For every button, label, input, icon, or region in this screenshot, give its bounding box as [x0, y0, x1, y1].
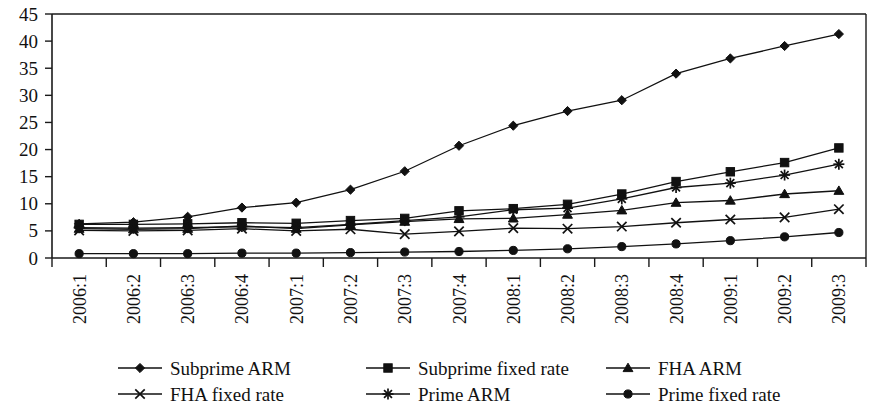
x-axis-tick-label: 2007:4 — [450, 274, 470, 324]
marker-square — [384, 364, 392, 372]
legend-item-label: FHA fixed rate — [170, 384, 284, 405]
marker-asterisk — [383, 389, 394, 400]
marker-circle — [238, 249, 246, 257]
y-axis-tick-label: 10 — [19, 193, 38, 214]
x-axis-tick-label: 2008:4 — [667, 274, 687, 324]
marker-square — [726, 168, 734, 176]
x-axis-tick-label: 2006:2 — [124, 274, 144, 324]
x-axis-tick-label: 2006:3 — [178, 274, 198, 324]
marker-circle — [401, 248, 409, 256]
marker-circle — [129, 250, 137, 258]
y-axis-tick-label: 0 — [29, 248, 39, 269]
y-axis-tick-label: 40 — [19, 31, 38, 52]
marker-diamond — [346, 185, 355, 194]
marker-circle — [455, 247, 463, 255]
y-axis-tick-label: 35 — [19, 58, 38, 79]
x-axis-tick-label: 2009:1 — [721, 274, 741, 324]
y-axis-tick-label: 5 — [29, 220, 39, 241]
marker-circle — [726, 237, 734, 245]
marker-asterisk — [291, 222, 302, 233]
marker-diamond — [834, 29, 843, 38]
marker-asterisk — [779, 170, 790, 181]
marker-diamond — [237, 203, 246, 212]
marker-asterisk — [562, 203, 573, 214]
y-axis: 051015202530354045 — [19, 4, 52, 269]
x-axis-tick-label: 2006:4 — [232, 274, 252, 324]
chart-canvas: 051015202530354045 2006:12006:22006:3200… — [0, 0, 884, 406]
marker-circle — [672, 240, 680, 248]
legend-item-label: Subprime ARM — [170, 358, 291, 379]
marker-circle — [184, 250, 192, 258]
marker-asterisk — [182, 222, 193, 233]
y-axis-tick-label: 45 — [19, 4, 38, 25]
marker-circle — [835, 228, 843, 236]
x-axis-tick-label: 2008:2 — [558, 274, 578, 324]
marker-circle — [75, 250, 83, 258]
marker-diamond — [671, 69, 680, 78]
chart-legend: Subprime ARMSubprime fixed rateFHA ARMFH… — [118, 358, 780, 405]
y-axis-tick-label: 30 — [19, 85, 38, 106]
marker-circle — [563, 245, 571, 253]
legend-item-prime-arm[interactable]: Prime ARM — [366, 384, 510, 405]
marker-diamond — [292, 198, 301, 207]
marker-asterisk — [671, 182, 682, 193]
marker-asterisk — [833, 159, 844, 170]
legend-item-fha-arm[interactable]: FHA ARM — [606, 358, 742, 379]
marker-diamond — [617, 96, 626, 105]
y-axis-tick-label: 25 — [19, 112, 38, 133]
x-axis-tick-label: 2008:3 — [612, 274, 632, 324]
marker-triangle — [834, 186, 844, 194]
marker-asterisk — [725, 178, 736, 189]
marker-asterisk — [508, 204, 519, 215]
marker-diamond — [509, 121, 518, 130]
y-axis-tick-label: 15 — [19, 166, 38, 187]
legend-item-label: Prime ARM — [418, 384, 510, 405]
legend-item-subprime-fixed-rate[interactable]: Subprime fixed rate — [366, 358, 569, 379]
x-axis-tick-label: 2007:2 — [341, 274, 361, 324]
marker-circle — [781, 233, 789, 241]
marker-asterisk — [345, 219, 356, 230]
marker-circle — [624, 390, 632, 398]
marker-diamond — [726, 54, 735, 63]
series-line — [79, 34, 839, 224]
marker-diamond — [400, 167, 409, 176]
legend-item-fha-fixed-rate[interactable]: FHA fixed rate — [118, 384, 284, 405]
marker-square — [780, 158, 788, 166]
x-axis-tick-label: 2008:1 — [504, 274, 524, 324]
x-axis-tick-label: 2006:1 — [70, 274, 90, 324]
marker-diamond — [780, 41, 789, 50]
marker-circle — [509, 246, 517, 254]
marker-asterisk — [616, 193, 627, 204]
marker-asterisk — [236, 221, 247, 232]
marker-diamond — [454, 141, 463, 150]
legend-item-label: Prime fixed rate — [658, 384, 780, 405]
x-axis: 2006:12006:22006:32006:42007:12007:22007… — [52, 258, 866, 324]
marker-circle — [346, 248, 354, 256]
marker-diamond — [563, 106, 572, 115]
line-chart: 051015202530354045 2006:12006:22006:3200… — [0, 0, 884, 406]
marker-asterisk — [399, 215, 410, 226]
marker-circle — [292, 249, 300, 257]
x-axis-tick-label: 2009:3 — [829, 274, 849, 324]
marker-asterisk — [454, 211, 465, 222]
x-axis-tick-label: 2007:3 — [395, 274, 415, 324]
y-axis-tick-label: 20 — [19, 139, 38, 160]
legend-item-label: FHA ARM — [658, 358, 742, 379]
x-axis-tick-label: 2009:2 — [775, 274, 795, 324]
series-layer — [74, 29, 845, 257]
legend-item-label: Subprime fixed rate — [418, 358, 569, 379]
marker-diamond — [135, 363, 144, 372]
x-axis-tick-label: 2007:1 — [287, 274, 307, 324]
marker-square — [835, 144, 843, 152]
legend-item-subprime-arm[interactable]: Subprime ARM — [118, 358, 291, 379]
marker-asterisk — [74, 222, 85, 233]
legend-item-prime-fixed-rate[interactable]: Prime fixed rate — [606, 384, 780, 405]
marker-asterisk — [128, 223, 139, 234]
marker-circle — [618, 243, 626, 251]
